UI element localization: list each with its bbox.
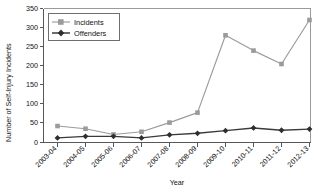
y-tick-label-50: 50 bbox=[30, 118, 38, 127]
y-tick-label-100: 100 bbox=[26, 99, 38, 108]
x-axis-tick-labels: 2003-04 2004-05 2005-06 2006-07 2007-08 … bbox=[33, 144, 310, 169]
y-tick-label-200: 200 bbox=[26, 61, 38, 70]
incidents-point-7 bbox=[251, 48, 256, 53]
incidents-point-0 bbox=[55, 124, 60, 129]
offenders-point-8 bbox=[279, 127, 285, 133]
x-tick-label-1: 2004-05 bbox=[61, 144, 86, 169]
offenders-point-3 bbox=[139, 135, 145, 141]
legend-label-offenders: Offenders bbox=[74, 29, 107, 38]
offenders-point-5 bbox=[195, 130, 201, 136]
x-tick-label-0: 2003-04 bbox=[33, 144, 58, 169]
x-tick-label-6: 2009-10 bbox=[201, 144, 226, 169]
x-tick-label-4: 2007-08 bbox=[145, 144, 170, 169]
incidents-point-5 bbox=[195, 110, 200, 115]
legend: Incidents Offenders bbox=[49, 14, 120, 41]
y-axis-ticks bbox=[40, 9, 43, 143]
offenders-point-6 bbox=[223, 128, 229, 134]
y-axis-title-group: Number of Self-Injury Incidents bbox=[4, 43, 13, 142]
line-chart: Number of Self-Injury Incidents 350 300 … bbox=[0, 0, 322, 190]
y-tick-label-150: 150 bbox=[26, 80, 38, 89]
incidents-point-9 bbox=[307, 18, 312, 23]
x-axis-ticks bbox=[58, 143, 310, 147]
offenders-line bbox=[58, 128, 310, 138]
incidents-point-6 bbox=[223, 33, 228, 38]
offenders-point-7 bbox=[251, 125, 257, 131]
offenders-point-1 bbox=[83, 133, 89, 139]
x-tick-label-5: 2008-09 bbox=[173, 144, 198, 169]
y-tick-label-300: 300 bbox=[26, 23, 38, 32]
x-tick-label-3: 2006-07 bbox=[117, 144, 142, 169]
offenders-point-9 bbox=[307, 126, 313, 132]
x-tick-label-8: 2011-12 bbox=[258, 144, 283, 169]
legend-marker-incidents bbox=[58, 19, 64, 25]
y-tick-label-0: 0 bbox=[34, 138, 38, 147]
offenders-point-4 bbox=[167, 132, 173, 138]
offenders-markers bbox=[55, 125, 313, 141]
chart-container: Number of Self-Injury Incidents 350 300 … bbox=[0, 0, 322, 190]
x-axis-title: Year bbox=[170, 178, 185, 187]
offenders-point-0 bbox=[55, 135, 61, 141]
x-tick-label-7: 2010-11 bbox=[230, 144, 255, 169]
x-tick-label-9: 2012-13 bbox=[285, 144, 310, 169]
y-tick-label-250: 250 bbox=[26, 42, 38, 51]
x-tick-label-2: 2005-06 bbox=[89, 144, 114, 169]
incidents-point-8 bbox=[279, 62, 284, 67]
series-offenders bbox=[55, 125, 313, 141]
y-tick-label-350: 350 bbox=[26, 4, 38, 13]
y-axis-title: Number of Self-Injury Incidents bbox=[4, 43, 13, 142]
y-axis-tick-labels: 350 300 250 200 150 100 50 0 bbox=[26, 4, 38, 147]
incidents-point-1 bbox=[83, 126, 88, 131]
incidents-point-3 bbox=[139, 129, 144, 134]
incidents-point-4 bbox=[167, 120, 172, 125]
legend-label-incidents: Incidents bbox=[74, 18, 104, 27]
